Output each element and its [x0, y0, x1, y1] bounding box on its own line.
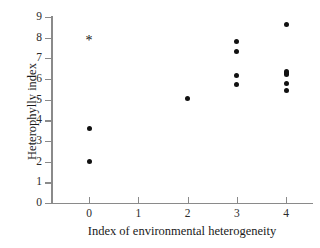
data-point — [185, 96, 190, 101]
y-tick — [45, 58, 51, 59]
y-tick-label: 0 — [28, 197, 42, 209]
data-point — [87, 159, 92, 164]
x-tick — [286, 197, 287, 203]
x-tick — [188, 197, 189, 203]
x-tick — [138, 197, 139, 203]
y-tick — [45, 100, 51, 101]
data-point — [87, 126, 92, 131]
y-tick — [45, 38, 51, 39]
y-axis-line — [51, 16, 53, 204]
plot-area: 0123456789 01234 * Index of environmenta… — [0, 0, 320, 248]
data-point — [234, 39, 239, 44]
data-point — [234, 82, 239, 87]
y-tick-label: 9 — [28, 11, 42, 23]
x-axis-line — [51, 203, 313, 205]
scatter-plot-figure: 0123456789 01234 * Index of environmenta… — [0, 0, 320, 248]
x-tick — [89, 197, 90, 203]
data-point — [234, 49, 239, 54]
data-point — [284, 22, 289, 27]
x-tick-label: 3 — [227, 208, 247, 220]
data-point — [284, 69, 289, 77]
y-tick — [45, 79, 51, 80]
x-tick-label: 4 — [276, 208, 296, 220]
x-axis-label: Index of environmental heterogeneity — [51, 224, 313, 239]
data-point — [234, 73, 239, 78]
data-point — [284, 88, 289, 93]
asterisk-marker: * — [84, 35, 95, 46]
x-tick-label: 1 — [128, 208, 148, 220]
x-tick-label: 2 — [178, 208, 198, 220]
y-axis-label: Heterophylly index — [25, 32, 40, 192]
y-tick — [45, 141, 51, 142]
y-tick — [45, 182, 51, 183]
data-point — [284, 81, 289, 86]
x-tick — [237, 197, 238, 203]
y-tick — [45, 120, 51, 121]
x-tick-label: 0 — [79, 208, 99, 220]
y-tick — [45, 162, 51, 163]
y-tick — [45, 17, 51, 18]
y-tick — [45, 203, 51, 204]
